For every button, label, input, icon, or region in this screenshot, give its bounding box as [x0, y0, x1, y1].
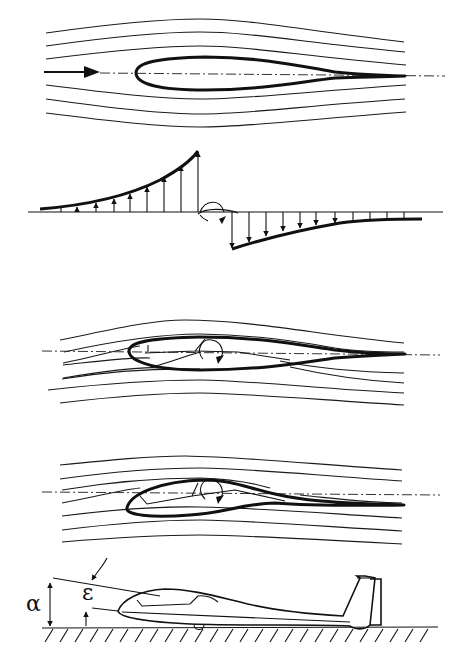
aerodynamics-diagram: α ε	[0, 0, 466, 651]
streamlines	[48, 320, 404, 405]
streamlines	[60, 456, 402, 544]
epsilon-label: ε	[82, 580, 93, 605]
panel-cambered-body-flow	[42, 456, 440, 544]
panel-inclined-body-flow	[42, 320, 440, 405]
upward-load-envelope	[40, 151, 198, 209]
ground-hatching	[45, 629, 428, 642]
panel-symmetric-body-flow	[44, 19, 445, 127]
ground-line	[42, 627, 438, 628]
canopy	[137, 596, 198, 606]
glider-side-view	[118, 576, 381, 630]
downward-load-envelope	[232, 219, 422, 249]
epsilon-angle: ε	[82, 558, 118, 626]
panel-pressure-distribution	[28, 151, 443, 249]
panel-glider-on-ground: α ε	[26, 558, 438, 642]
alpha-label: α	[26, 591, 41, 616]
cambered-body	[127, 480, 404, 516]
flow-direction-arrow	[44, 66, 100, 78]
